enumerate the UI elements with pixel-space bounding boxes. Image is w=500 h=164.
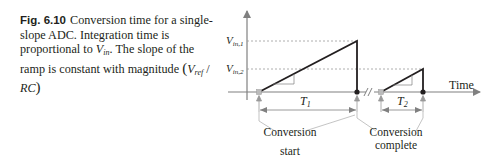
time-axis-label: Time <box>449 78 474 92</box>
end-marker-1 <box>354 89 359 94</box>
conversion-complete-label-line2: complete <box>375 139 417 152</box>
ramp-2 <box>381 69 423 92</box>
start-marker-1 <box>257 90 262 95</box>
t1-label: T1 <box>300 94 311 109</box>
t2-label: T2 <box>397 94 408 109</box>
conversion-start-label-line1: Conversion <box>263 126 316 138</box>
start-marker-2 <box>379 90 384 95</box>
end-marker-2 <box>420 89 425 94</box>
conversion-complete-label-line1: Conversion <box>369 126 422 138</box>
vin2-label: Vin,2 <box>226 62 244 76</box>
conversion-start-label-line2: start <box>280 145 301 157</box>
vin1-label: Vin,1 <box>226 34 243 48</box>
single-slope-adc-diagram: Vin,1 Vin,2 T1 T2 Conversion start Conve… <box>0 0 500 164</box>
